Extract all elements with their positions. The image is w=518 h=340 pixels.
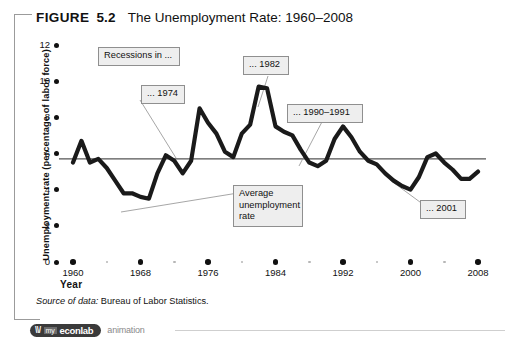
x-tick-label-1976: 1976 xyxy=(186,267,230,278)
media-bar-rule xyxy=(175,330,505,331)
y-tick-dot-10 xyxy=(54,79,59,84)
y-tick-label-10: 10 xyxy=(28,75,50,86)
x-tick-label-2008: 2008 xyxy=(456,267,500,278)
x-minor-tick-dot-2004 xyxy=(443,261,446,264)
x-tick-dot-1976 xyxy=(205,259,211,265)
y-tick-label-4: 4 xyxy=(28,184,50,195)
source-label: Source of data: xyxy=(36,296,98,306)
x-tick-label-1992: 1992 xyxy=(321,267,365,278)
annotation-recession-1982: ... 1982 xyxy=(243,56,289,75)
brand-prefix: my xyxy=(44,327,57,334)
y-tick-label-8: 8 xyxy=(28,111,50,122)
media-kind-label: animation xyxy=(107,325,144,335)
annotation-recession-1974: ... 1974 xyxy=(141,85,185,104)
source-note: Source of data: Bureau of Labor Statisti… xyxy=(36,296,209,306)
annotation-average-rate: Average unemployment rate xyxy=(233,185,303,227)
media-bar[interactable]: \\/ my econlab animation xyxy=(30,323,145,337)
econlab-mark-icon: \\/ xyxy=(35,325,41,335)
source-value: Bureau of Labor Statistics. xyxy=(98,296,208,306)
brand-name: econlab xyxy=(60,325,94,336)
y-tick-dot-8 xyxy=(54,115,59,120)
y-tick-label-12: 12 xyxy=(28,39,50,50)
x-tick-label-1968: 1968 xyxy=(119,267,163,278)
y-tick-label-0: 0 xyxy=(28,256,50,267)
x-tick-label-1984: 1984 xyxy=(254,267,298,278)
annotation-recession-2001: ... 2001 xyxy=(420,200,466,219)
y-tick-label-2: 2 xyxy=(28,220,50,231)
y-tick-dot-12 xyxy=(54,43,59,48)
x-tick-dot-2008 xyxy=(475,259,481,265)
x-tick-dot-1960 xyxy=(70,259,76,265)
y-tick-label-6: 6 xyxy=(28,148,50,159)
x-tick-label-2000: 2000 xyxy=(389,267,433,278)
x-tick-label-1960: 1960 xyxy=(51,267,95,278)
x-tick-dot-2000 xyxy=(408,259,414,265)
x-tick-dot-1968 xyxy=(138,259,144,265)
x-minor-tick-dot-1988 xyxy=(308,261,311,264)
annotation-recessions-in: Recessions in ... xyxy=(98,47,180,66)
x-minor-tick-dot-1972 xyxy=(173,261,176,264)
annotation-recession-1990-1991: ... 1990–1991 xyxy=(287,104,363,123)
x-tick-dot-1992 xyxy=(340,259,346,265)
y-tick-dot-6 xyxy=(54,151,59,156)
figure-container: FIGURE 5.2 The Unemployment Rate: 1960–2… xyxy=(0,0,518,340)
y-tick-dot-0 xyxy=(54,260,59,265)
x-axis-title: Year xyxy=(60,279,82,290)
chart-plot-area: Unemployment rate (percentage of labor f… xyxy=(0,0,518,340)
x-tick-dot-1984 xyxy=(273,259,279,265)
myeconlab-logo[interactable]: \\/ my econlab xyxy=(30,324,101,337)
